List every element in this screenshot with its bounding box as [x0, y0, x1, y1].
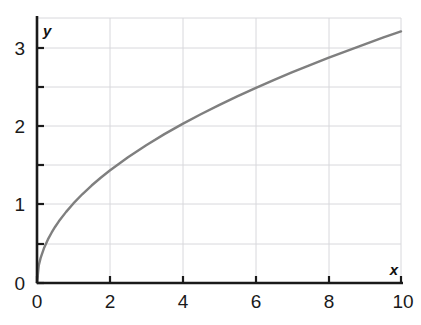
y-tick-label-3: 3: [14, 38, 25, 59]
x-tick-label-0: 0: [32, 291, 43, 312]
sqrt-function-plot: 0 2 4 6 8 10 0 1 2 3 y x: [0, 0, 421, 325]
chart-figure: 0 2 4 6 8 10 0 1 2 3 y x: [0, 0, 421, 325]
y-tick-label-0: 0: [14, 273, 25, 294]
x-tick-label-4: 4: [178, 291, 189, 312]
x-tick-label-6: 6: [251, 291, 262, 312]
x-tick-label-10: 10: [392, 291, 413, 312]
x-tick-label-2: 2: [105, 291, 116, 312]
y-tick-label-2: 2: [14, 116, 25, 137]
y-axis-label: y: [42, 22, 52, 39]
x-axis-label: x: [389, 261, 399, 278]
y-tick-label-1: 1: [14, 194, 25, 215]
chart-background: [0, 0, 421, 325]
x-tick-label-8: 8: [324, 291, 335, 312]
